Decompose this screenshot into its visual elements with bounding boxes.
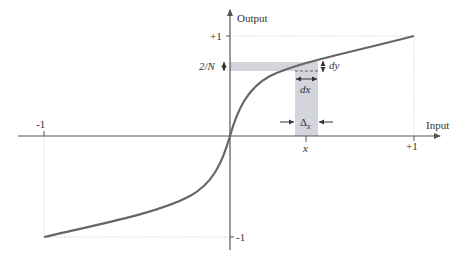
x-axis-label: Input xyxy=(426,119,449,131)
companding-diagram: Output Input +1 -1 -1 +1 x 2/N dy dx Δx xyxy=(0,0,467,261)
step-height-label: 2/N xyxy=(199,60,216,72)
dx-label: dx xyxy=(300,83,311,95)
dy-label: dy xyxy=(329,59,340,71)
y-axis-label: Output xyxy=(237,12,268,24)
y-tick-label-minus1: -1 xyxy=(236,231,245,243)
x-tick-label-plus1: +1 xyxy=(406,140,418,152)
x-tick-label-minus1: -1 xyxy=(36,118,45,130)
y-tick-label-plus1: +1 xyxy=(210,30,222,42)
delta-subscript: x xyxy=(306,122,311,131)
delta-symbol: Δ xyxy=(300,116,307,128)
x-marker-label: x xyxy=(302,142,308,154)
